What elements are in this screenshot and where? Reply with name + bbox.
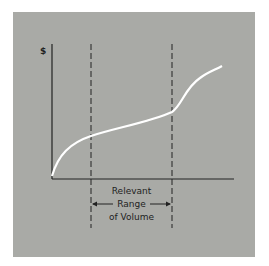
- range-label-line2: Range: [91, 199, 172, 209]
- y-axis-label: $: [40, 46, 46, 56]
- range-label-line1: Relevant: [91, 186, 172, 196]
- cost-curve-diagram: [0, 0, 269, 266]
- range-label-line3: of Volume: [91, 212, 172, 222]
- cost-curve: [52, 66, 222, 176]
